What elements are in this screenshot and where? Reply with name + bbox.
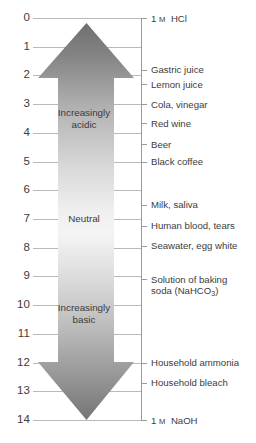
substance-label-household-bleach: Household bleach [151,377,228,388]
substance-label-naoh: 1 M NaOH [151,415,198,427]
caption-acidic-line1: Increasingly [32,107,136,119]
gridline [33,133,141,134]
substance-tick-seawater [141,246,147,247]
gridline [33,420,141,421]
substance-tick-bleach [141,383,147,384]
gridline [33,104,141,105]
ph-tick-7: 7 [4,213,30,225]
substance-label-black-coffee: Black coffee [151,156,203,167]
substance-label-beer: Beer [151,139,171,150]
ph-tick-8: 8 [4,242,30,254]
substance-label-household-ammonia: Household ammonia [151,357,239,368]
substance-tick-redwine [141,123,147,124]
caption-neutral-line1: Neutral [32,213,136,225]
substance-tick-lemon [141,84,147,85]
gridline [33,162,141,163]
caption-increasingly-acidic: Increasingly acidic [32,107,136,131]
substance-label-cola-vinegar: Cola, vinegar [151,99,208,110]
substance-label-red-wine: Red wine [151,118,191,129]
baking-soda-subscript: 3 [211,290,215,297]
gridline [33,75,141,76]
caption-basic-line2: basic [32,314,136,326]
caption-acidic-line2: acidic [32,119,136,131]
substance-label-lemon-juice: Lemon juice [151,79,203,90]
caption-neutral: Neutral [32,213,136,225]
ph-scale-numbers: 0 1 2 3 4 5 6 7 8 9 10 11 12 13 14 [0,0,30,443]
substance-tick-naoh [141,420,147,421]
gridline [33,334,141,335]
ph-tick-12: 12 [4,357,30,369]
baking-soda-line2-pre: soda (NaHCO [151,285,211,296]
substance-tick-milk [141,205,147,206]
ph-tick-11: 11 [4,328,30,340]
substance-label-gastric-juice: Gastric juice [151,64,204,75]
caption-increasingly-basic: Increasingly basic [32,302,136,326]
gridline [33,391,141,392]
substance-label-milk-saliva: Milk, saliva [151,199,198,210]
gridline [33,363,141,364]
ph-tick-9: 9 [4,270,30,282]
hcl-formula: HCl [171,13,187,24]
ph-tick-2: 2 [4,69,30,81]
substance-tick-blood [141,226,147,227]
ph-tick-1: 1 [4,41,30,53]
ph-tick-14: 14 [4,414,30,426]
substance-label-baking-soda: Solution of baking soda (NaHCO3) [151,274,255,298]
ph-tick-4: 4 [4,127,30,139]
substance-tick-bakingsoda [141,279,147,280]
substance-label-human-blood-tears: Human blood, tears [151,220,235,231]
ph-tick-3: 3 [4,98,30,110]
ph-tick-5: 5 [4,156,30,168]
substance-tick-beer [141,144,147,145]
ph-tick-10: 10 [4,299,30,311]
baking-soda-line1: Solution of baking [151,274,227,285]
ph-tick-13: 13 [4,385,30,397]
substance-tick-ammonia [141,363,147,364]
caption-basic-line1: Increasingly [32,302,136,314]
substance-tick-cola [141,104,147,105]
substance-tick-coffee [141,162,147,163]
ph-scale-figure: 0 1 2 3 4 5 6 7 8 9 10 11 12 13 14 [0,0,256,443]
gridline [33,276,141,277]
ph-tick-6: 6 [4,184,30,196]
gridline [33,248,141,249]
substance-tick-hcl [141,18,147,19]
naoh-formula: NaOH [171,415,198,426]
gridline [33,47,141,48]
substance-tick-gastric [141,70,147,71]
substance-label-hcl: 1 M HCl [151,13,187,25]
baking-soda-line2-post: ) [215,285,218,296]
ph-tick-0: 0 [4,12,30,24]
gridline [33,190,141,191]
ph-axis-line [141,18,142,420]
substance-label-seawater-egg-white: Seawater, egg white [151,240,237,251]
gridline [33,18,141,19]
